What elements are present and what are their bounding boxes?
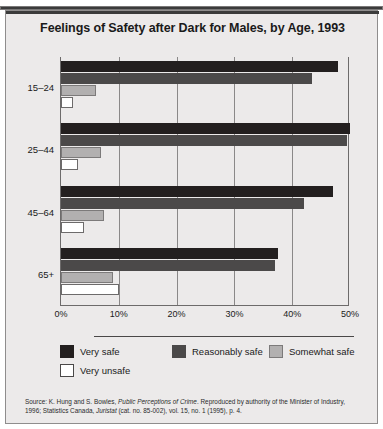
legend-swatch-somewhat-safe [269, 345, 283, 358]
bar-reasonably-safe-15-24[interactable] [61, 73, 312, 84]
x-tick-label-20: 20% [168, 309, 186, 319]
x-tick-label-0: 0% [54, 309, 67, 319]
legend-row-2: Very unsafe [32, 364, 362, 383]
bar-somewhat-safe-45-64[interactable] [61, 210, 104, 221]
x-tick-label-10: 10% [110, 309, 128, 319]
bar-very-unsafe-15-24[interactable] [61, 97, 73, 108]
legend-swatch-very-unsafe [60, 364, 74, 377]
legend-row-1: Very safe Reasonably safe Somewhat safe [32, 345, 362, 364]
x-tick-label-30: 30% [225, 309, 243, 319]
bar-very-safe-15-24[interactable] [61, 61, 338, 72]
x-tick-label-50: 50% [341, 309, 359, 319]
legend-label-somewhat-safe: Somewhat safe [289, 346, 354, 357]
legend-label-very-unsafe: Very unsafe [80, 365, 130, 376]
chart-legend: Very safe Reasonably safe Somewhat safe … [32, 345, 362, 383]
bar-reasonably-safe-45-64[interactable] [61, 198, 304, 209]
source-prefix: Source: K. Hung and S. Bowles, [25, 398, 118, 405]
bar-somewhat-safe-65+[interactable] [61, 272, 113, 283]
bar-very-unsafe-25-44[interactable] [61, 159, 78, 170]
category-label-45-64: 45–64 [28, 207, 54, 218]
category-label-65+: 65+ [38, 269, 54, 280]
legend-item-somewhat-safe[interactable]: Somewhat safe [269, 345, 354, 358]
source-suffix: (cat. no. 85-002), vol. 15, no. 1 (1995)… [117, 407, 242, 414]
source-title-2: Juristat [96, 407, 117, 414]
bar-group-25-44: 25–44 [61, 119, 348, 181]
legend-swatch-very-safe [60, 345, 74, 358]
bar-somewhat-safe-25-44[interactable] [61, 147, 101, 158]
figure-panel: Feelings of Safety after Dark for Males,… [5, 10, 378, 424]
bar-group-45-64: 45–64 [61, 182, 348, 244]
legend-item-reasonably-safe[interactable]: Reasonably safe [172, 345, 263, 358]
legend-divider [94, 336, 354, 337]
legend-swatch-reasonably-safe [172, 345, 186, 358]
bar-very-safe-45-64[interactable] [61, 186, 333, 197]
figure-top-rule [6, 11, 379, 14]
bar-very-unsafe-45-64[interactable] [61, 222, 84, 233]
bar-somewhat-safe-15-24[interactable] [61, 85, 96, 96]
bar-group-15-24: 15–24 [61, 57, 348, 119]
legend-label-reasonably-safe: Reasonably safe [192, 346, 263, 357]
bar-reasonably-safe-65+[interactable] [61, 260, 275, 271]
bar-very-unsafe-65+[interactable] [61, 284, 119, 295]
bar-group-65+: 65+ [61, 244, 348, 306]
bar-very-safe-25-44[interactable] [61, 123, 350, 134]
category-label-25-44: 25–44 [28, 144, 54, 155]
plot-area: 0%10%20%30%40%50%15–2425–4445–6465+ [60, 57, 349, 306]
bar-very-safe-65+[interactable] [61, 248, 278, 259]
scan-header-strip [0, 0, 383, 10]
source-note: Source: K. Hung and S. Bowles, Public Pe… [25, 397, 361, 415]
category-label-15-24: 15–24 [28, 82, 54, 93]
chart-title: Feelings of Safety after Dark for Males,… [6, 21, 379, 35]
source-title-1: Public Perceptions of Crime [118, 398, 197, 405]
bar-reasonably-safe-25-44[interactable] [61, 135, 347, 146]
x-tick-label-40: 40% [283, 309, 301, 319]
legend-label-very-safe: Very safe [80, 346, 120, 357]
legend-item-very-unsafe[interactable]: Very unsafe [60, 364, 130, 377]
legend-item-very-safe[interactable]: Very safe [60, 345, 120, 358]
